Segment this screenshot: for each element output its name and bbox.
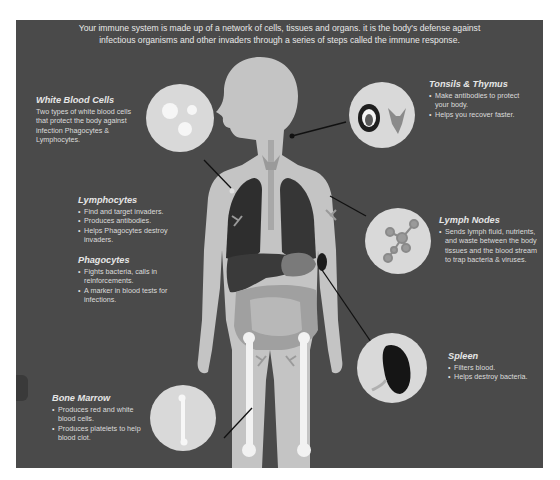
- thymus-icon: [388, 108, 406, 134]
- spleen-icon: [383, 345, 411, 394]
- wbc-line: Two types of white blood cells: [36, 107, 146, 116]
- lymph-nodes-title: Lymph Nodes: [439, 216, 539, 225]
- list-item: Helps you recover faster.: [429, 110, 524, 119]
- list-item: Produces platelets to help blood clot.: [52, 424, 142, 442]
- bone-marrow-title: Bone Marrow: [52, 394, 142, 403]
- list-item: Produces red and white blood cells.: [52, 405, 142, 423]
- list-item: Make antibodies to protect your body.: [429, 91, 524, 109]
- spleen-block: Spleen Filters blood. Helps destroy bact…: [448, 352, 543, 382]
- list-item: Filters blood.: [448, 363, 543, 372]
- list-item: Helps Phagocytes destroy invaders.: [78, 226, 183, 244]
- lymph-node-icon: [384, 220, 418, 262]
- list-item: Sends lymph fluid, nutrients, and waste …: [439, 227, 539, 264]
- spleen-title: Spleen: [448, 352, 543, 361]
- phagocytes-block: Phagocytes Fights bacteria, calls in rei…: [78, 256, 178, 304]
- list-item: Helps destroy bacteria.: [448, 372, 543, 381]
- bone-icon: [179, 395, 188, 446]
- bone-marrow-block: Bone Marrow Produces red and white blood…: [52, 394, 142, 442]
- list-item: A marker in blood tests for infections.: [78, 286, 178, 304]
- infographic-panel: Your immune system is made up of a netwo…: [16, 20, 543, 468]
- white-blood-cells-title: White Blood Cells: [36, 96, 146, 105]
- mouth-icon: [358, 104, 380, 132]
- tonsils-thymus-title: Tonsils & Thymus: [429, 80, 524, 89]
- phagocytes-title: Phagocytes: [78, 256, 178, 265]
- lymphocytes-block: Lymphocytes Find and target invaders. Pr…: [78, 196, 183, 244]
- wbc-line: that protect the body against: [36, 116, 146, 125]
- tonsils-thymus-block: Tonsils & Thymus Make antibodies to prot…: [429, 80, 524, 119]
- list-item: Produces antibodies.: [78, 216, 183, 225]
- lymphocytes-title: Lymphocytes: [78, 196, 183, 205]
- list-item: Find and target invaders.: [78, 207, 183, 216]
- list-item: Fights bacteria, calls in reinforcements…: [78, 267, 178, 285]
- white-blood-cells-block: White Blood Cells Two types of white blo…: [36, 96, 146, 144]
- white-blood-cells-icon: [162, 103, 197, 136]
- wbc-line: Lymphocytes.: [36, 135, 146, 144]
- lymph-nodes-block: Lymph Nodes Sends lymph fluid, nutrients…: [439, 216, 539, 264]
- wbc-line: infection Phagocytes &: [36, 126, 146, 135]
